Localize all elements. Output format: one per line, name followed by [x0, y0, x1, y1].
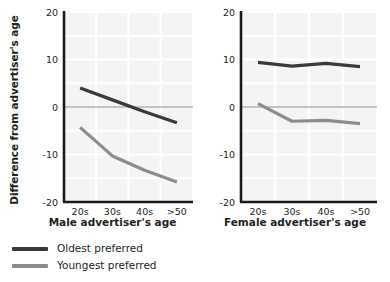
- y-tick-label: -10: [219, 149, 235, 160]
- figure: Difference from advertiser's age 20100-1…: [0, 0, 390, 282]
- x-tick-label: 20s: [72, 206, 89, 215]
- y-tick-label: -20: [42, 197, 58, 208]
- legend-item-youngest: Youngest preferred: [12, 257, 242, 274]
- legend-item-oldest: Oldest preferred: [12, 240, 242, 257]
- x-tick-label: 30s: [283, 206, 300, 215]
- legend-label-oldest: Oldest preferred: [57, 243, 143, 254]
- x-tick-label: 30s: [104, 206, 121, 215]
- legend-label-youngest: Youngest preferred: [57, 260, 157, 271]
- y-tick-label: 20: [223, 7, 235, 18]
- x-tick-label: >50: [167, 206, 187, 215]
- y-tick-label: 10: [223, 54, 235, 65]
- x-tick-label: 40s: [317, 206, 334, 215]
- y-tick-label: -10: [42, 149, 58, 160]
- x-axis-title-female: Female advertiser's age: [205, 216, 385, 228]
- y-tick-label: 0: [229, 102, 235, 113]
- panel-male: 20100-10-2020s30s40s>50 Male advertiser'…: [30, 0, 195, 232]
- legend-swatch-youngest: [12, 264, 48, 268]
- y-tick-label: 10: [46, 54, 58, 65]
- x-tick-label: 20s: [249, 206, 266, 215]
- x-tick-label: >50: [350, 206, 370, 215]
- panel-female: 20100-10-2020s30s40s>50 Female advertise…: [205, 0, 385, 232]
- y-tick-label: 0: [52, 102, 58, 113]
- plot-area-male: 20100-10-2020s30s40s>50: [30, 0, 195, 215]
- y-axis-title: Difference from advertiser's age: [8, 10, 20, 210]
- y-tick-label: 20: [46, 7, 58, 18]
- y-tick-label: -20: [219, 197, 235, 208]
- x-tick-label: 40s: [136, 206, 153, 215]
- plot-area-female: 20100-10-2020s30s40s>50: [205, 0, 385, 215]
- legend-swatch-oldest: [12, 247, 48, 251]
- legend: Oldest preferred Youngest preferred: [12, 240, 242, 274]
- x-axis-title-male: Male advertiser's age: [30, 216, 195, 228]
